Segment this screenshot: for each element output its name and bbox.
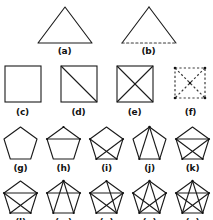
- figure-row-pentagons-lower: (l) (m): [0, 178, 213, 220]
- figure-row-pentagons-upper: (g) (h): [0, 124, 213, 173]
- figure-label-p: (p): [185, 217, 199, 220]
- pentagon-3-chords-fan-art: [44, 178, 83, 218]
- figure-label-h: (h): [56, 163, 70, 173]
- pentagon-0-chords-art: [1, 124, 40, 164]
- pentagon-2-chords-fan-art: [130, 124, 169, 164]
- figure-row-squares: (c) (d) (e): [0, 63, 213, 117]
- figure-cell-d: (d): [57, 63, 101, 117]
- pentagon-vertex-dots: [46, 180, 81, 214]
- figure-label-b: (b): [141, 46, 155, 56]
- figure-cell-l: (l): [1, 178, 40, 220]
- figure-cell-f: (f): [169, 63, 213, 117]
- figure-label-j: (j): [144, 163, 155, 173]
- figure-cell-o: (o): [130, 178, 169, 220]
- pentagon-vertex-dots: [175, 138, 210, 160]
- figure-cell-c: (c): [1, 63, 45, 117]
- figure-cell-e: (e): [113, 63, 157, 117]
- pentagon-vertex-dots: [175, 180, 210, 214]
- figure-label-l: (l): [15, 217, 26, 220]
- figure-label-m: (m): [55, 217, 72, 220]
- pentagon-vertex-dots: [138, 126, 161, 160]
- figure-label-n: (n): [99, 217, 113, 220]
- pentagon-4-chords-art: [87, 178, 126, 218]
- square-plain-art: [1, 63, 45, 107]
- figure-label-k: (k): [186, 163, 200, 173]
- figure-label-a: (a): [58, 46, 72, 56]
- figure-cell-p: (p): [173, 178, 212, 220]
- pentagon-2-chords-crossed-art: [87, 124, 126, 164]
- figure-label-d: (d): [71, 107, 85, 117]
- figure-cell-i: (i): [87, 124, 126, 173]
- figure-cell-h: (h): [44, 124, 83, 173]
- figure-cell-k: (k): [173, 124, 212, 173]
- figure-label-f: (f): [185, 107, 197, 117]
- square-one-diagonal-art: [57, 63, 101, 107]
- figure-cell-m: (m): [44, 178, 83, 220]
- figure-label-e: (e): [128, 107, 142, 117]
- square-both-diagonals-art: [113, 63, 157, 107]
- figure-cell-j: (j): [130, 124, 169, 173]
- square-dashed-complete-art: [169, 63, 213, 107]
- figure-plate: (a) (b) (c): [0, 2, 213, 220]
- pentagon-vertex-dots: [3, 192, 38, 214]
- pentagon-vertex-dots: [46, 126, 81, 140]
- figure-label-c: (c): [16, 107, 29, 117]
- figure-label-i: (i): [101, 163, 112, 173]
- triangle-plain-art: [34, 2, 96, 48]
- pentagon-1-chord-art: [44, 124, 83, 164]
- figure-cell-a: (a): [34, 2, 96, 56]
- figure-row-triangles: (a) (b): [0, 2, 213, 56]
- figure-cell-g: (g): [1, 124, 40, 173]
- pentagon-vertex-dots: [89, 180, 124, 214]
- pentagon-5-chords-complete-art: [173, 178, 212, 218]
- figure-cell-n: (n): [87, 178, 126, 220]
- figure-cell-b: (b): [118, 2, 180, 56]
- pentagon-vertex-dots: [89, 138, 124, 160]
- pentagon-4-chords-alt-art: [130, 178, 169, 218]
- figure-label-g: (g): [13, 163, 27, 173]
- pentagon-3-chords-alt-art: [1, 178, 40, 218]
- pentagon-3-chords-art: [173, 124, 212, 164]
- pentagon-vertex-dots: [132, 180, 167, 214]
- figure-label-o: (o): [143, 217, 157, 220]
- triangle-dashed-base-art: [118, 2, 180, 48]
